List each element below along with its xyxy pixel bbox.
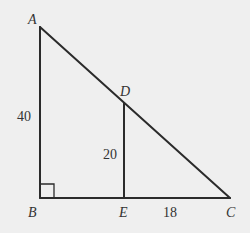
vertex-label-e: E	[118, 205, 128, 220]
length-label-ab: 40	[17, 109, 31, 124]
vertex-label-d: D	[119, 84, 130, 99]
geometry-diagram: A D B E C 40 20 18	[0, 0, 250, 233]
vertex-label-c: C	[226, 205, 236, 220]
segment-ac	[40, 27, 230, 198]
length-label-de: 20	[103, 147, 117, 162]
length-label-ec: 18	[163, 205, 177, 220]
vertex-label-b: B	[28, 205, 37, 220]
triangle-figure: A D B E C 40 20 18	[0, 0, 250, 233]
vertex-label-a: A	[27, 12, 37, 27]
right-angle-marker-icon	[40, 184, 54, 198]
